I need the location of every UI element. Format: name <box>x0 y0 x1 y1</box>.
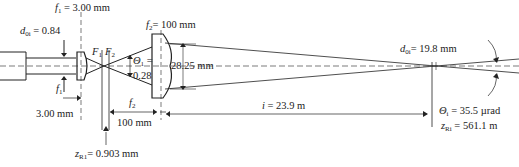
theta-i-label: Θi = 35.5 µrad <box>439 106 500 118</box>
f2-bottom-label: f2 <box>129 98 135 110</box>
diagram-graphics <box>0 0 519 167</box>
theta1-value: 0.28 <box>133 71 151 82</box>
f1-top-label: f1 = 3.00 mm <box>55 3 110 15</box>
d0-output-label: d0i= 19.8 mm <box>400 44 457 56</box>
f2-top-label: f2= 100 mm <box>146 20 196 32</box>
F2-label: F2 <box>105 47 115 59</box>
f2-bottom-value: 100 mm <box>117 118 152 129</box>
theta-i-arrow <box>488 40 496 96</box>
aperture-label: 28.25 mm <box>171 61 214 72</box>
beam-expander-diagram: f1 = 3.00 mm d0i = 0.84 f2= 100 mm F1 F2… <box>0 0 519 167</box>
zR1-label: zR1= 0.903 mm <box>75 149 138 161</box>
f1-bottom-label: f1 <box>56 84 62 96</box>
d0-input-label: d0i = 0.84 <box>20 26 60 38</box>
f1-bottom-value: 3.00 mm <box>36 109 73 120</box>
zRi-label: zRi = 561.1 m <box>441 121 497 133</box>
i-distance-label: i = 23.9 m <box>262 101 305 112</box>
theta1-label: Θ1 = <box>133 56 153 68</box>
F1-label: F1 <box>92 47 102 59</box>
